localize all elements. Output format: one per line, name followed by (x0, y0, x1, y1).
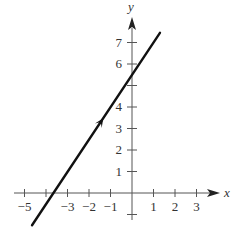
plot-area: −5−3−2−1123123467 x y (0, 0, 233, 231)
x-axis-label: x (223, 185, 230, 200)
ticks (25, 43, 197, 215)
x-tick-label: 2 (172, 199, 179, 214)
data-line (32, 33, 160, 225)
y-tick-label: 6 (116, 56, 123, 71)
x-tick-label: −5 (18, 199, 32, 214)
chart: −5−3−2−1123123467 x y (0, 0, 233, 231)
y-tick-label: 1 (116, 164, 123, 179)
y-axis-label: y (126, 0, 134, 14)
x-tick-label: −3 (61, 199, 75, 214)
y-tick-label: 3 (116, 121, 123, 136)
x-tick-label: 3 (193, 199, 200, 214)
series (32, 33, 160, 225)
y-tick-label: 2 (116, 142, 123, 157)
x-tick-label: −1 (104, 199, 118, 214)
tick-labels: −5−3−2−1123123467 (18, 35, 200, 215)
x-tick-label: 1 (150, 199, 157, 214)
y-tick-label: 7 (116, 35, 123, 50)
y-tick-label: 4 (116, 99, 123, 114)
x-tick-label: −2 (82, 199, 96, 214)
